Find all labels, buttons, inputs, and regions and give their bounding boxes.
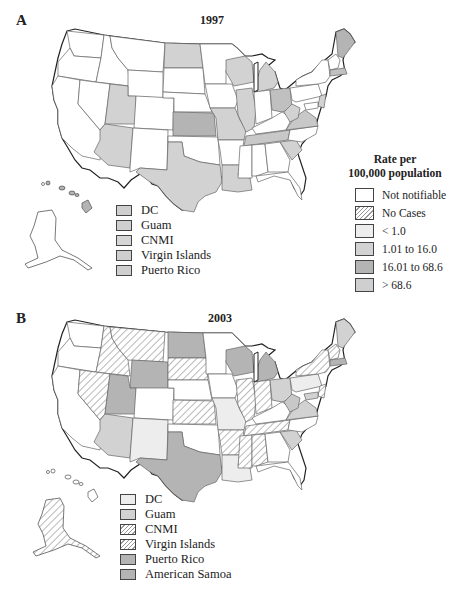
territory-label: Puerto Rico [141, 263, 200, 278]
territory-row: CNMI [120, 522, 231, 537]
us-map-2003 [52, 319, 355, 502]
swatch-virgin-islands [116, 250, 132, 261]
alaska-2003 [33, 498, 100, 558]
territory-row: DC [120, 492, 231, 507]
swatch-gt-68 [355, 278, 374, 292]
hawaii-1997 [42, 181, 93, 213]
swatch-no-cases [355, 206, 374, 220]
territory-label: CNMI [141, 233, 174, 248]
hawaii-2003 [47, 469, 99, 502]
swatch-cnmi [116, 235, 132, 246]
swatch-lt-1 [355, 224, 374, 238]
territory-label: DC [141, 203, 158, 218]
swatch-dc [120, 494, 136, 505]
swatch-dc [116, 205, 132, 216]
rate-row: < 1.0 [355, 222, 446, 240]
swatch-puerto-rico [116, 265, 132, 276]
swatch-16-to-68 [355, 260, 374, 274]
territory-row: Puerto Rico [120, 552, 231, 567]
territory-label: Virgin Islands [141, 248, 211, 263]
territory-row: Puerto Rico [116, 263, 211, 278]
rate-row: 1.01 to 16.0 [355, 240, 446, 258]
rate-label: No Cases [382, 207, 426, 219]
territory-label: American Samoa [145, 567, 231, 582]
rate-label: > 68.6 [382, 279, 412, 291]
rate-row: 16.01 to 68.6 [355, 258, 446, 276]
swatch-virgin-islands [120, 539, 136, 550]
territory-legend-2003: DC Guam CNMI Virgin Islands Puerto Rico … [120, 492, 231, 582]
rate-title-line1: Rate per [336, 152, 454, 166]
territory-row: American Samoa [120, 567, 231, 582]
rate-row: > 68.6 [355, 276, 446, 294]
territory-label: CNMI [145, 522, 178, 537]
territory-row: Virgin Islands [120, 537, 231, 552]
swatch-guam [120, 509, 136, 520]
territory-label: Guam [145, 507, 176, 522]
alaska-1997 [25, 210, 92, 270]
swatch-puerto-rico [120, 554, 136, 565]
rate-label: 1.01 to 16.0 [382, 243, 437, 255]
territory-row: Virgin Islands [116, 248, 211, 263]
territory-row: Guam [116, 218, 211, 233]
territory-legend-1997: DC Guam CNMI Virgin Islands Puerto Rico [116, 203, 211, 278]
territory-label: Puerto Rico [145, 552, 204, 567]
rate-row: No Cases [355, 204, 446, 222]
swatch-not-notifiable [355, 188, 374, 202]
panel-b-label: B [16, 310, 26, 327]
territory-row: DC [116, 203, 211, 218]
swatch-guam [116, 220, 132, 231]
swatch-1-to-16 [355, 242, 374, 256]
territory-label: Guam [141, 218, 172, 233]
rate-legend: Not notifiable No Cases < 1.0 1.01 to 16… [355, 186, 446, 294]
rate-title-line2: 100,000 population [336, 166, 454, 180]
territory-label: DC [145, 492, 162, 507]
territory-label: Virgin Islands [145, 537, 215, 552]
rate-label: 16.01 to 68.6 [382, 261, 443, 273]
swatch-american-samoa [120, 569, 136, 580]
panel-b-year: 2003 [208, 311, 232, 326]
rate-label: < 1.0 [382, 225, 406, 237]
territory-row: Guam [120, 507, 231, 522]
rate-legend-title: Rate per 100,000 population [336, 152, 454, 180]
rate-row: Not notifiable [355, 186, 446, 204]
rate-label: Not notifiable [382, 189, 446, 201]
swatch-cnmi [120, 524, 136, 535]
territory-row: CNMI [116, 233, 211, 248]
us-map-1997 [52, 29, 355, 212]
